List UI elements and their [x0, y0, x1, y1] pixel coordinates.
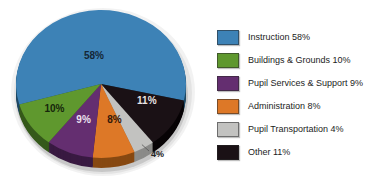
legend-swatch — [217, 145, 239, 160]
legend-swatch — [217, 99, 239, 114]
slice-label: 11% — [137, 95, 157, 106]
legend-swatch — [217, 76, 239, 91]
pie-chart-figure: 58%11%4%8%9%10% Instruction 58%Buildings… — [0, 0, 366, 185]
pie-chart: 58%11%4%8%9%10% — [0, 0, 212, 185]
legend-label: Instruction 58% — [248, 32, 310, 42]
legend-item: Other 11% — [217, 144, 363, 160]
legend-label: Pupil Transportation 4% — [248, 124, 344, 134]
legend: Instruction 58%Buildings & Grounds 10%Pu… — [217, 29, 363, 167]
legend-item: Instruction 58% — [217, 29, 363, 45]
slice-label: 58% — [84, 50, 104, 61]
slice-label: 10% — [44, 103, 64, 114]
legend-item: Pupil Transportation 4% — [217, 121, 363, 137]
legend-label: Other 11% — [248, 147, 290, 157]
legend-label: Buildings & Grounds 10% — [248, 55, 351, 65]
legend-label: Pupil Services & Support 9% — [248, 78, 363, 88]
slice-label: 9% — [76, 114, 91, 125]
legend-swatch — [217, 30, 239, 45]
legend-label: Administration 8% — [248, 101, 321, 111]
legend-item: Administration 8% — [217, 98, 363, 114]
legend-swatch — [217, 53, 239, 68]
slice-label: 4% — [151, 149, 164, 159]
slice-label: 8% — [107, 114, 122, 125]
legend-swatch — [217, 122, 239, 137]
legend-item: Buildings & Grounds 10% — [217, 52, 363, 68]
legend-item: Pupil Services & Support 9% — [217, 75, 363, 91]
